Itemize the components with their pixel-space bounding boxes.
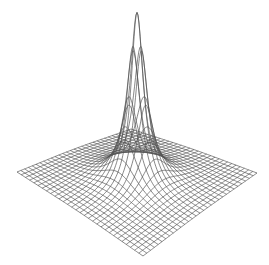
grid-line xyxy=(80,12,194,212)
grid-line xyxy=(25,132,139,178)
grid-line xyxy=(76,46,190,209)
grid-line xyxy=(70,51,196,216)
grid-line xyxy=(74,12,200,213)
wireframe-surface xyxy=(0,0,269,265)
grid-line xyxy=(28,167,154,247)
surface-plot xyxy=(0,0,269,265)
grid-line xyxy=(122,165,236,241)
